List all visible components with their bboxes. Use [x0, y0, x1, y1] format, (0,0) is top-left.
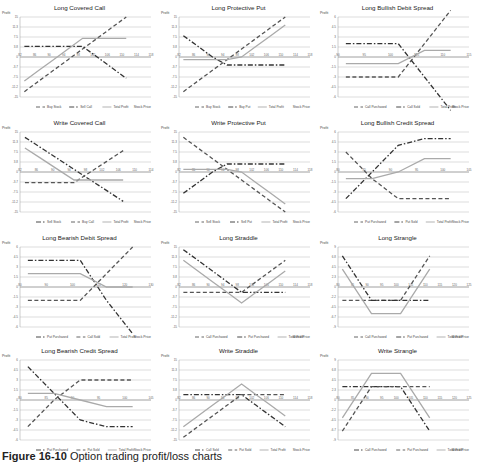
svg-text:Call Sold: Call Sold: [87, 335, 100, 339]
svg-text:6.8: 6.8: [332, 368, 337, 372]
svg-text:Profit: Profit: [161, 126, 169, 130]
svg-text:-11.2: -11.2: [11, 200, 18, 204]
svg-text:3.8: 3.8: [173, 275, 178, 279]
svg-text:100: 100: [394, 396, 399, 400]
svg-text:3.8: 3.8: [173, 160, 178, 164]
svg-text:-3: -3: [15, 305, 18, 309]
svg-text:118: 118: [308, 168, 313, 172]
figure-caption-text: Option trading profit/loss charts: [70, 450, 222, 462]
svg-text:114: 114: [134, 53, 139, 57]
svg-text:120: 120: [452, 396, 457, 400]
svg-text:Put Purchased: Put Purchased: [365, 220, 386, 224]
svg-text:100: 100: [388, 53, 393, 57]
svg-text:106: 106: [264, 396, 269, 400]
svg-text:Sell Stock: Sell Stock: [206, 220, 221, 224]
svg-text:-4.5: -4.5: [331, 200, 337, 204]
svg-text:9: 9: [334, 358, 336, 362]
svg-text:90: 90: [336, 53, 340, 57]
svg-text:-3.7: -3.7: [172, 65, 178, 69]
svg-text:114: 114: [293, 168, 298, 172]
chart-title: Long Protective Put: [211, 4, 265, 11]
svg-text:4.5: 4.5: [332, 265, 337, 269]
svg-text:Total Profit: Total Profit: [271, 448, 286, 452]
svg-text:-3.7: -3.7: [13, 180, 19, 184]
svg-text:-15: -15: [14, 210, 19, 214]
svg-text:-6.7: -6.7: [331, 428, 337, 432]
svg-text:90: 90: [45, 283, 49, 287]
svg-text:130: 130: [148, 283, 153, 287]
svg-text:90: 90: [206, 168, 210, 172]
svg-text:118: 118: [308, 53, 313, 57]
svg-text:Buy Put: Buy Put: [239, 105, 250, 109]
svg-text:4.5: 4.5: [332, 378, 337, 382]
svg-text:Stock Price: Stock Price: [293, 220, 310, 224]
svg-text:6: 6: [334, 130, 336, 134]
chart-title: Long Bearish Debit Spread: [42, 234, 117, 241]
svg-text:82: 82: [177, 396, 181, 400]
chart-panel-long-protective-put: Long Protective PutProfit-15-11.2-7.5-3.…: [159, 0, 318, 113]
svg-text:11.3: 11.3: [12, 140, 18, 144]
svg-text:Buy Stock: Buy Stock: [206, 105, 221, 109]
svg-text:-6: -6: [333, 95, 336, 99]
svg-text:-7.5: -7.5: [13, 190, 19, 194]
svg-text:105: 105: [148, 396, 153, 400]
svg-text:3.8: 3.8: [173, 45, 178, 49]
svg-text:95: 95: [380, 283, 384, 287]
svg-text:11.3: 11.3: [171, 140, 177, 144]
svg-text:82: 82: [177, 283, 181, 287]
svg-text:11.3: 11.3: [171, 255, 177, 259]
svg-text:100: 100: [440, 168, 445, 172]
svg-text:110: 110: [278, 283, 283, 287]
svg-text:102: 102: [249, 53, 254, 57]
svg-text:7.5: 7.5: [173, 378, 178, 382]
svg-text:86: 86: [35, 168, 39, 172]
svg-text:Profit: Profit: [161, 11, 169, 15]
svg-text:Call Sold: Call Sold: [407, 105, 420, 109]
svg-text:110: 110: [119, 53, 124, 57]
figure-label: Figure 16-10: [2, 450, 67, 462]
svg-text:125: 125: [466, 283, 471, 287]
svg-text:2.3: 2.3: [332, 275, 337, 279]
chart-title: Long Bullish Credit Spread: [361, 119, 435, 126]
svg-text:-7.5: -7.5: [172, 305, 178, 309]
svg-text:Stock Price: Stock Price: [134, 335, 151, 339]
svg-text:-11.2: -11.2: [170, 85, 177, 89]
svg-text:-7.5: -7.5: [172, 418, 178, 422]
svg-text:90: 90: [206, 396, 210, 400]
svg-text:100: 100: [394, 283, 399, 287]
svg-text:7.5: 7.5: [14, 150, 19, 154]
svg-text:6: 6: [334, 15, 336, 19]
svg-text:15: 15: [174, 130, 178, 134]
svg-text:Buy Stock: Buy Stock: [47, 105, 62, 109]
svg-text:90: 90: [206, 283, 210, 287]
svg-text:Stock Price: Stock Price: [293, 335, 310, 339]
svg-text:90: 90: [47, 53, 51, 57]
svg-text:114: 114: [149, 168, 154, 172]
svg-text:82: 82: [18, 53, 22, 57]
svg-text:Total Profit: Total Profit: [437, 220, 452, 224]
svg-text:118: 118: [149, 53, 154, 57]
svg-text:Profit: Profit: [320, 11, 328, 15]
svg-text:2.3: 2.3: [332, 388, 337, 392]
svg-text:110: 110: [423, 283, 428, 287]
svg-text:114: 114: [293, 53, 298, 57]
svg-text:Buy Call: Buy Call: [82, 220, 94, 224]
svg-text:-6: -6: [15, 325, 18, 329]
svg-text:Profit: Profit: [161, 241, 169, 245]
svg-text:118: 118: [308, 396, 313, 400]
svg-text:3: 3: [334, 35, 336, 39]
svg-text:1.5: 1.5: [332, 45, 337, 49]
svg-text:-7.5: -7.5: [13, 75, 19, 79]
svg-text:-7.5: -7.5: [172, 190, 178, 194]
svg-text:-15: -15: [14, 95, 19, 99]
svg-text:-3: -3: [333, 75, 336, 79]
chart-panel-long-bullish-credit-spread: Long Bullish Credit SpreadProfit-6-4.5-3…: [318, 115, 477, 228]
svg-text:Stock Price: Stock Price: [293, 448, 310, 452]
chart-title: Long Straddle: [219, 234, 258, 241]
svg-text:102: 102: [249, 168, 254, 172]
svg-text:Profit: Profit: [2, 354, 10, 358]
svg-text:-1.5: -1.5: [331, 180, 337, 184]
svg-text:6.8: 6.8: [332, 255, 337, 259]
svg-text:125: 125: [466, 396, 471, 400]
svg-text:-3: -3: [15, 418, 18, 422]
